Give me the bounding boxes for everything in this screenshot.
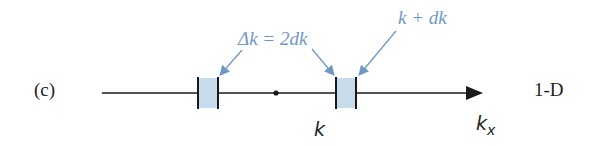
origin-point xyxy=(273,90,278,95)
left-dk-interval xyxy=(198,77,218,109)
kx-subscript: x xyxy=(487,122,495,138)
k-plus-dk-arrow xyxy=(360,31,396,74)
panel-label: (c) xyxy=(34,79,55,101)
kx-base: k xyxy=(476,112,487,134)
right-dk-interval xyxy=(336,77,356,109)
k-point-label: k xyxy=(314,118,325,140)
diagram-canvas xyxy=(0,0,599,146)
k-space-1d-diagram: (c) Δk = 2dk k + dk 1-D k kx xyxy=(0,0,599,146)
axis-arrowhead-icon xyxy=(466,86,483,100)
delta-k-annotation: Δk = 2dk xyxy=(238,28,307,50)
kx-axis-label: kx xyxy=(476,112,495,138)
delta-k-arrow-right xyxy=(312,49,333,74)
delta-k-arrow-left xyxy=(221,50,242,74)
k-plus-dk-annotation: k + dk xyxy=(398,7,447,29)
dimension-label: 1-D xyxy=(534,79,564,101)
